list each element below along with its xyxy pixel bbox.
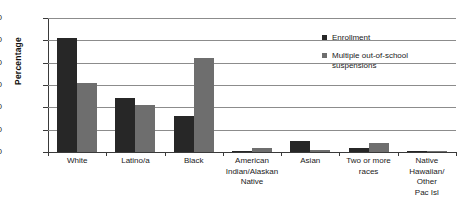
bar-suspensions [194,58,214,152]
y-axis-tick-label: 0 [0,148,2,156]
legend-label: Enrollment [332,33,370,43]
bar-enrollment [232,151,252,152]
bar-enrollment [407,151,427,152]
legend-item: Multiple out-of-school suspensions [322,51,428,71]
bar-suspensions [427,151,447,152]
bar-group [115,18,155,152]
x-axis-category-label: White [48,156,106,167]
x-axis-category-label: Latino/a [106,156,164,167]
bar-suspensions [369,143,389,152]
y-axis-tick-label: 40 [0,59,2,67]
bar-enrollment [290,141,310,152]
gridline [48,152,456,153]
bar-suspensions [310,150,330,152]
legend-label: Multiple out-of-school suspensions [332,51,428,71]
bar-enrollment [349,148,369,152]
y-axis-tick-label: 20 [0,103,2,111]
bar-suspensions [252,148,272,152]
x-axis-category-label: Asian [281,156,339,167]
x-axis-category-label: Black [165,156,223,167]
x-axis-category-label: Two or moreraces [339,156,397,177]
y-axis-tick-label: 10 [0,126,2,134]
legend-swatch-icon [322,35,327,40]
y-axis-tick-label: 60 [0,14,2,22]
x-axis-category-label: AmericanIndian/AlaskanNative [223,156,281,188]
y-axis-tick-label: 50 [0,36,2,44]
chart-legend: EnrollmentMultiple out-of-school suspens… [322,33,428,79]
bar-enrollment [57,38,77,152]
x-axis-category-label: NativeHawaiian/OtherPac Isl [398,156,456,198]
y-axis-tick-label: 30 [0,81,2,89]
bar-suspensions [135,105,155,152]
bar-chart: Percentage 0102030405060 WhiteLatino/aBl… [0,0,464,208]
bar-group [57,18,97,152]
legend-item: Enrollment [322,33,428,43]
bar-suspensions [77,83,97,152]
bar-group [232,18,272,152]
bar-enrollment [174,116,194,152]
legend-swatch-icon [322,53,327,58]
bar-group [174,18,214,152]
bar-enrollment [115,98,135,152]
x-axis-tick-mark [456,152,457,156]
y-axis-title: Percentage [13,21,23,101]
